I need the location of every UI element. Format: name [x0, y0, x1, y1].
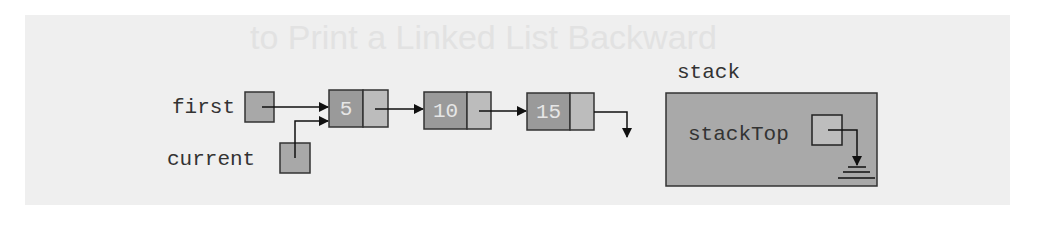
node-value: 10	[424, 101, 467, 122]
stack-label: stack	[677, 62, 740, 83]
node15-null-arrow	[594, 112, 627, 137]
node-value: 5	[329, 99, 363, 120]
current-label: current	[167, 149, 255, 170]
node-value: 15	[527, 102, 570, 123]
linked-list-diagram	[0, 0, 1042, 239]
first-label: first	[172, 97, 235, 118]
stack-top-label: stackTop	[688, 124, 789, 145]
